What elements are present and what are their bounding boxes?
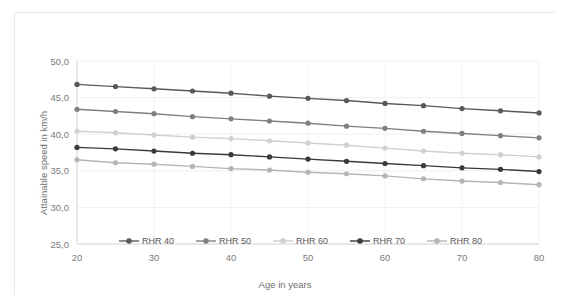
x-axis-title: Age in years [259, 279, 312, 290]
data-point [113, 109, 118, 114]
y-axis-tick-label: 40,0 [51, 129, 70, 140]
data-point [498, 167, 503, 172]
data-point [151, 86, 156, 91]
data-point [459, 165, 464, 170]
data-point [113, 130, 118, 135]
data-point [74, 145, 79, 150]
data-point [74, 107, 79, 112]
data-point [382, 146, 387, 151]
legend-label: RHR 70 [373, 236, 405, 246]
data-point [344, 143, 349, 148]
y-axis-tick-label: 30,0 [51, 202, 70, 213]
legend-label: RHR 60 [296, 236, 328, 246]
data-point [421, 129, 426, 134]
data-point [498, 152, 503, 157]
data-point [305, 156, 310, 161]
data-point [421, 103, 426, 108]
data-point [382, 101, 387, 106]
data-point [536, 135, 541, 140]
data-point [267, 138, 272, 143]
data-point [228, 152, 233, 157]
legend-marker-icon [280, 238, 286, 244]
data-point [113, 84, 118, 89]
plot-background [15, 13, 556, 296]
data-point [190, 164, 195, 169]
data-point [421, 148, 426, 153]
data-point [190, 151, 195, 156]
data-point [382, 173, 387, 178]
data-point [228, 136, 233, 141]
x-axis-tick-label: 50 [303, 252, 314, 263]
data-point [74, 129, 79, 134]
data-point [228, 91, 233, 96]
legend-marker-icon [203, 238, 209, 244]
data-point [305, 96, 310, 101]
data-point [190, 88, 195, 93]
data-point [459, 131, 464, 136]
data-point [536, 182, 541, 187]
data-point [113, 160, 118, 165]
legend-marker-icon [434, 238, 440, 244]
x-axis-tick-label: 40 [226, 252, 237, 263]
data-point [421, 163, 426, 168]
data-point [305, 170, 310, 175]
data-point [228, 116, 233, 121]
legend-marker-icon [357, 238, 363, 244]
data-point [536, 110, 541, 115]
data-point [267, 94, 272, 99]
data-point [498, 108, 503, 113]
data-point [459, 106, 464, 111]
data-point [151, 162, 156, 167]
data-point [190, 114, 195, 119]
x-axis-tick-label: 70 [457, 252, 468, 263]
data-point [267, 167, 272, 172]
data-point [459, 151, 464, 156]
data-point [267, 118, 272, 123]
data-point [498, 180, 503, 185]
data-point [74, 82, 79, 87]
x-axis-tick-label: 20 [72, 252, 83, 263]
data-point [344, 98, 349, 103]
data-point [459, 178, 464, 183]
x-axis-tick-label: 80 [534, 252, 545, 263]
data-point [305, 140, 310, 145]
data-point [305, 121, 310, 126]
data-point [536, 154, 541, 159]
y-axis-tick-label: 25,0 [51, 239, 70, 250]
chart-card: Speed as a Function of RHR and Age at a … [14, 12, 555, 295]
y-axis-tick-label: 50,0 [51, 56, 70, 67]
legend-marker-icon [126, 238, 132, 244]
data-point [536, 169, 541, 174]
data-point [190, 135, 195, 140]
x-axis-tick-label: 60 [380, 252, 391, 263]
data-point [151, 111, 156, 116]
x-axis-tick-label: 30 [149, 252, 160, 263]
data-point [267, 154, 272, 159]
data-point [344, 171, 349, 176]
data-point [151, 132, 156, 137]
legend-label: RHR 40 [142, 236, 174, 246]
data-point [74, 157, 79, 162]
legend-label: RHR 80 [450, 236, 482, 246]
data-point [344, 124, 349, 129]
data-point [113, 146, 118, 151]
legend-label: RHR 50 [219, 236, 251, 246]
data-point [344, 159, 349, 164]
y-axis-tick-label: 45,0 [51, 92, 70, 103]
data-point [382, 126, 387, 131]
y-axis-tick-label: 35,0 [51, 165, 70, 176]
data-point [382, 161, 387, 166]
data-point [228, 166, 233, 171]
data-point [421, 176, 426, 181]
line-chart-plot: 25,030,035,040,045,050,0 20304050607080 … [15, 13, 556, 296]
data-point [151, 148, 156, 153]
y-axis-title: Attainable speed in km/h [38, 111, 49, 215]
data-point [498, 133, 503, 138]
